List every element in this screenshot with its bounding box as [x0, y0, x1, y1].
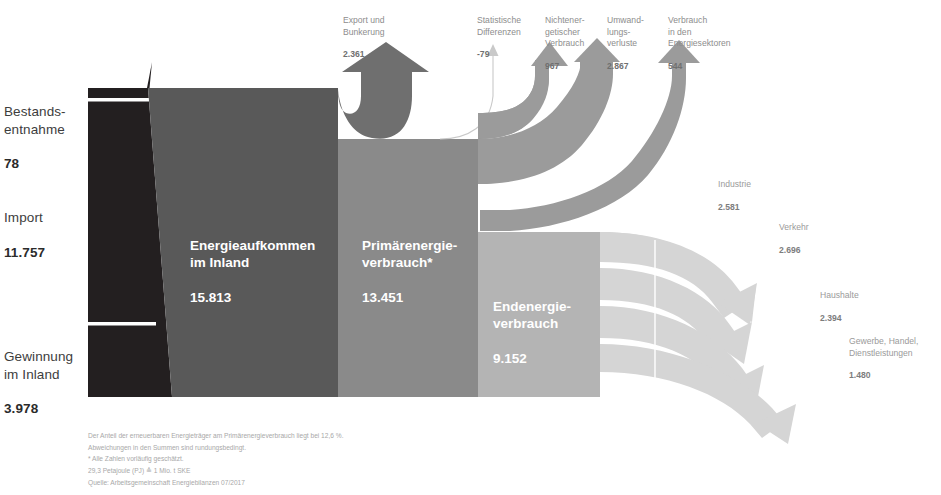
source-name-gewinnung: Gewinnung im Inland — [4, 348, 73, 383]
loss-name-export-bunkerung: Export und Bunkerung — [343, 15, 385, 38]
loss-value-nichtenergetischer-verbrauch: 967 — [545, 61, 585, 72]
sector-name-verkehr: Verkehr — [779, 222, 809, 233]
source-divider-bestandsentnahme — [88, 98, 150, 102]
sector-value-haushalte: 2.394 — [820, 313, 859, 324]
node-value-energieaufkommen: 15.813 — [190, 289, 315, 307]
sector-value-industrie: 2.581 — [718, 202, 751, 213]
loss-label-umwandlungsverluste: Umwand- lungs- verluste 2.867 — [607, 4, 644, 83]
loss-value-umwandlungsverluste: 2.867 — [607, 61, 644, 72]
footnote-line-5: Quelle: Arbeitsgemeinschaft Energiebilan… — [88, 477, 558, 489]
node-label-primaerenergie: Primärenergie- verbrauch* 13.451 — [362, 219, 457, 324]
source-label-bestandsentnahme: Bestands- entnahme 78 — [4, 86, 66, 190]
source-value-bestandsentnahme: 78 — [4, 155, 66, 172]
sector-value-gewerbe-handel: 1.480 — [849, 370, 918, 381]
node-name-energieaufkommen: Energieaufkommen im Inland — [190, 237, 315, 272]
loss-name-umwandlungsverluste: Umwand- lungs- verluste — [607, 15, 644, 49]
footnote-line-4: 29,3 Petajoule (PJ) ≙ 1 Mio. t SKE — [88, 465, 558, 477]
node-value-primaerenergie: 13.451 — [362, 289, 457, 307]
footnote-line-2: Abweichungen in den Summen sind rundungs… — [88, 442, 558, 454]
loss-label-export-bunkerung: Export und Bunkerung 2.361 — [343, 4, 385, 72]
footnotes-block: Der Anteil der erneuerbaren Energieträge… — [88, 430, 558, 489]
node-name-primaerenergie: Primärenergie- verbrauch* — [362, 237, 457, 272]
source-label-gewinnung: Gewinnung im Inland 3.978 — [4, 331, 73, 435]
sector-flows-group — [600, 232, 796, 444]
loss-label-verbrauch-energiesektoren: Verbrauch in den Energiesektoren 544 — [668, 4, 731, 83]
source-label-import: Import 11.757 — [4, 192, 45, 278]
loss-name-verbrauch-energiesektoren: Verbrauch in den Energiesektoren — [668, 15, 731, 49]
sector-name-industrie: Industrie — [718, 179, 751, 190]
loss-name-nichtenergetischer-verbrauch: Nichtener- getischer Verbrauch — [545, 15, 585, 49]
source-name-bestandsentnahme: Bestands- entnahme — [4, 103, 66, 138]
loss-value-export-bunkerung: 2.361 — [343, 49, 385, 60]
sector-label-verkehr: Verkehr 2.696 — [779, 211, 809, 268]
loss-value-statistische-differenzen: -79 — [477, 49, 521, 60]
source-value-import: 11.757 — [4, 244, 45, 261]
source-value-gewinnung: 3.978 — [4, 400, 73, 417]
sector-name-gewerbe-handel: Gewerbe, Handel, Dienstleistungen — [849, 336, 918, 359]
energy-flow-sankey-chart: Bestands- entnahme 78 Import 11.757 Gewi… — [0, 0, 941, 495]
loss-label-nichtenergetischer-verbrauch: Nichtener- getischer Verbrauch 967 — [545, 4, 585, 83]
sector-name-haushalte: Haushalte — [820, 290, 859, 301]
footnote-line-1: Der Anteil der erneuerbaren Energieträge… — [88, 430, 558, 442]
node-name-endenergie: Endenergie- verbrauch — [493, 298, 571, 333]
loss-value-verbrauch-energiesektoren: 544 — [668, 61, 731, 72]
loss-name-statistische-differenzen: Statistische Differenzen — [477, 15, 521, 38]
node-label-energieaufkommen: Energieaufkommen im Inland 15.813 — [190, 219, 315, 324]
sector-value-verkehr: 2.696 — [779, 245, 809, 256]
sector-label-industrie: Industrie 2.581 — [718, 168, 751, 225]
node-value-endenergie: 9.152 — [493, 350, 571, 368]
loss-label-statistische-differenzen: Statistische Differenzen -79 — [477, 4, 521, 72]
node-label-endenergie: Endenergie- verbrauch 9.152 — [493, 280, 571, 385]
sector-label-gewerbe-handel: Gewerbe, Handel, Dienstleistungen 1.480 — [849, 325, 918, 393]
source-divider-gewinnung — [88, 322, 156, 326]
source-block-spike — [147, 62, 152, 88]
footnote-line-3: * Alle Zahlen vorläufig geschätzt. — [88, 453, 558, 465]
source-name-import: Import — [4, 209, 45, 226]
